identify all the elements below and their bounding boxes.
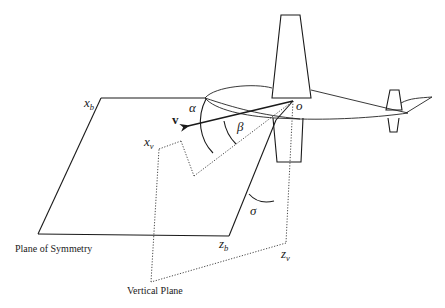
x-b-label: xb [83,95,94,112]
beta-label: β [236,119,244,134]
z-v-label: zv [280,246,290,263]
angle-sigma-arc [249,194,274,202]
alpha-label: α [189,100,197,115]
x-v-label: xv [143,134,154,151]
angle-alpha-arc [200,99,213,153]
plane-of-symmetry-label: Plane of Symmetry [15,243,92,254]
vertical-plane [151,101,293,282]
sigma-label: σ [250,203,257,218]
origin-label: o [296,98,303,113]
z-b-label: zb [218,236,228,253]
angle-beta-arc [224,121,236,144]
aircraft-axes-diagram: xb α v β o xv σ zb zv Plane of Symmetry … [0,0,445,308]
vertical-plane-label: Vertical Plane [127,285,183,296]
velocity-label: v [172,112,179,127]
aircraft [205,15,432,162]
